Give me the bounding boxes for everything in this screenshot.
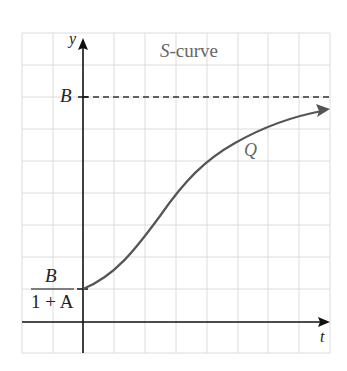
asymptote-label: B	[60, 85, 72, 107]
t-axis-label: t	[320, 328, 324, 346]
curve-label: Q	[244, 140, 257, 161]
curve-arrow-icon	[316, 104, 330, 117]
y-axis-label: y	[69, 30, 76, 48]
chart-title: S-curve	[160, 40, 218, 62]
fraction-denominator: 1 + A	[31, 291, 73, 313]
title-rest: -curve	[170, 40, 219, 61]
s-curve	[83, 111, 322, 289]
title-italic: S	[160, 40, 170, 61]
fraction-numerator: B	[45, 265, 57, 287]
